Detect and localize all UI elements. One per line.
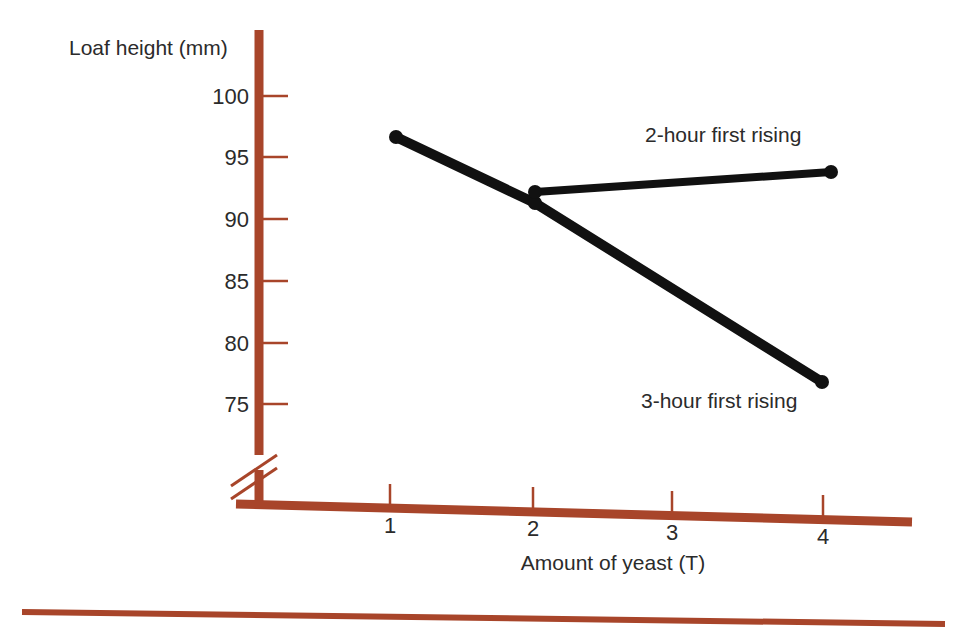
- series-label-3-hour-first-rising: 3-hour first rising: [641, 389, 797, 412]
- y-tick-label-90: 90: [225, 207, 249, 232]
- data-point-2hr-x2: [528, 185, 542, 199]
- y-axis-ticks: [263, 96, 288, 404]
- y-tick-label-100: 100: [212, 84, 249, 109]
- y-tick-label-80: 80: [225, 331, 249, 356]
- y-axis-break-icon: [231, 455, 277, 499]
- data-point-3hr-x1: [389, 130, 403, 144]
- x-axis-title: Amount of yeast (T): [521, 551, 705, 574]
- y-tick-label-95: 95: [225, 145, 249, 170]
- loaf-height-line-chart: 100 95 90 85 80 75 1 2 3 4 Loaf height (…: [0, 0, 967, 644]
- y-axis-title: Loaf height (mm): [69, 36, 228, 59]
- series-line-2-hour-first-rising: [535, 172, 831, 192]
- footer-rule: [22, 612, 945, 624]
- x-tick-label-1: 1: [384, 513, 396, 538]
- x-axis-line: [236, 504, 912, 522]
- x-tick-label-3: 3: [666, 520, 678, 545]
- x-tick-label-4: 4: [817, 524, 829, 549]
- x-tick-label-2: 2: [527, 516, 539, 541]
- series-label-2-hour-first-rising: 2-hour first rising: [645, 123, 801, 146]
- y-tick-label-75: 75: [225, 392, 249, 417]
- data-point-2hr-x4: [824, 165, 838, 179]
- chart-figure: 100 95 90 85 80 75 1 2 3 4 Loaf height (…: [0, 0, 967, 644]
- data-point-3hr-x4: [815, 375, 829, 389]
- y-tick-label-85: 85: [225, 269, 249, 294]
